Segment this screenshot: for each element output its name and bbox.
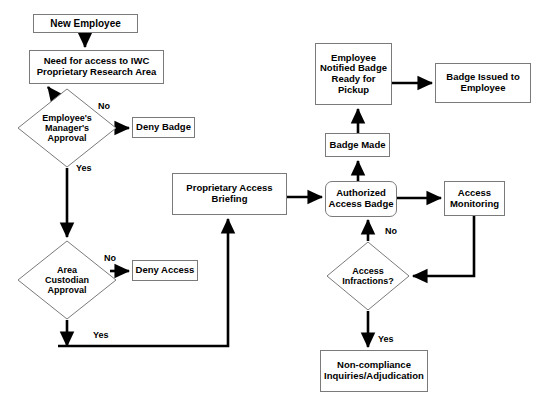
node-employee-notified-badge[interactable]: Employee Notified Badge Ready for Pickup [315,43,392,105]
edge-label-managers-no: No [98,101,110,111]
node-managers-approval-label: Employee's Manager's Approval [17,88,117,168]
edge-monitoring-to-infractions [413,216,474,276]
node-authorized-access-badge[interactable]: Authorized Access Badge [325,181,397,217]
node-access-monitoring[interactable]: Access Monitoring [444,181,505,216]
node-non-compliance[interactable]: Non-compliance Inquiries/Adjudication [320,350,428,392]
node-deny-access[interactable]: Deny Access [132,260,198,281]
node-new-employee[interactable]: New Employee [33,14,138,33]
node-deny-badge[interactable]: Deny Badge [132,117,195,138]
edge-label-infractions-no: No [385,226,397,236]
node-need-for-access[interactable]: Need for access to IWC Proprietary Resea… [29,50,164,84]
node-managers-approval[interactable]: Employee's Manager's Approval [17,88,117,168]
edge-label-managers-yes: Yes [76,163,92,173]
node-proprietary-access-briefing[interactable]: Proprietary Access Briefing [172,173,287,215]
node-area-custodian-approval-label: Area Custodian Approval [17,240,117,320]
edge-label-custodian-no: No [104,253,116,263]
edge-label-custodian-yes: Yes [93,330,109,340]
node-badge-made[interactable]: Badge Made [325,133,390,157]
node-badge-issued-to-employee[interactable]: Badge Issued to Employee [435,63,531,103]
node-area-custodian-approval[interactable]: Area Custodian Approval [17,240,117,320]
flowchart-canvas: New Employee Need for access to IWC Prop… [0,0,548,410]
edge-label-infractions-yes: Yes [378,334,394,344]
node-access-infractions-label: Access Infractions? [326,241,410,311]
node-access-infractions[interactable]: Access Infractions? [326,241,410,311]
